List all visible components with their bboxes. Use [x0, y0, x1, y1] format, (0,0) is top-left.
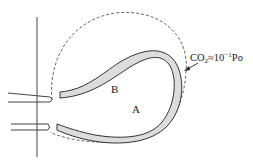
- annotation-relation: ≈10: [208, 52, 224, 63]
- label-a: A: [132, 104, 140, 115]
- lower-tube: [11, 124, 50, 130]
- annotation-unit: Po: [232, 52, 243, 63]
- shaded-vessel: [57, 51, 182, 143]
- diagram-canvas: [0, 0, 253, 168]
- annotation-species: CO: [190, 52, 205, 63]
- label-b: B: [111, 84, 118, 95]
- co2-annotation: CO2≈10−1Po: [190, 52, 243, 65]
- annotation-arrow-head: [184, 66, 190, 71]
- upper-tube: [8, 93, 52, 102]
- annotation-superscript: −1: [224, 51, 231, 59]
